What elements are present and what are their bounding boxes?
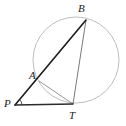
angle-mark-at-p bbox=[19, 100, 22, 105]
vertex-label-p: P bbox=[4, 98, 11, 109]
secant-line-p-to-b bbox=[15, 20, 86, 105]
vertex-label-a: A bbox=[29, 70, 36, 81]
vertex-label-b: B bbox=[78, 3, 85, 14]
circumscribed-circle bbox=[33, 17, 119, 103]
vertex-label-t: T bbox=[69, 110, 75, 121]
geometry-canvas bbox=[0, 0, 126, 126]
geometry-figure: B A P T bbox=[0, 0, 126, 126]
chord-line-a-to-t bbox=[39, 81, 73, 104]
tangent-line-p-to-t bbox=[15, 104, 73, 105]
